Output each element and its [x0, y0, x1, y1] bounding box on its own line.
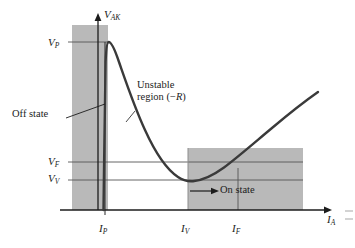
- unstable-region-suffix: ): [182, 91, 186, 102]
- x-axis-label-subscript: A: [331, 218, 336, 227]
- x-tick-label-peak-current: IP: [99, 222, 107, 236]
- on-state-annotation: On state: [220, 184, 255, 196]
- off-state-shaded-region: [72, 25, 108, 210]
- y-tick-symbol-vv: V: [48, 172, 55, 184]
- y-tick-symbol-vf: V: [48, 155, 55, 167]
- unstable-region-prefix: region (−: [137, 91, 176, 102]
- y-axis-label-subscript: AK: [111, 13, 121, 22]
- y-tick-label-valley-voltage: VV: [48, 172, 59, 186]
- y-tick-symbol-vp: V: [48, 36, 55, 48]
- off-state-annotation: Off state: [12, 108, 48, 120]
- x-tick-subscript-iv: V: [185, 227, 190, 236]
- x-tick-label-forward-current: IF: [232, 222, 240, 236]
- unstable-region-leader-line: [126, 111, 135, 122]
- vi-characteristic-figure: VAK IA VP VF VV IP IV IF Unstable region…: [0, 0, 355, 248]
- x-tick-subscript-ip: P: [103, 227, 108, 236]
- y-tick-label-peak-voltage: VP: [48, 36, 59, 50]
- x-tick-label-valley-current: IV: [181, 222, 189, 236]
- unstable-region-annotation: Unstable region (−R): [137, 79, 186, 103]
- x-tick-subscript-if: F: [236, 227, 241, 236]
- x-axis-label: IA: [327, 213, 335, 227]
- y-tick-subscript-vp: P: [55, 41, 60, 50]
- y-tick-subscript-vv: V: [55, 177, 60, 186]
- unstable-region-line1: Unstable: [137, 79, 186, 91]
- y-tick-subscript-vf: F: [55, 160, 60, 169]
- unstable-region-line2: region (−R): [137, 91, 186, 103]
- y-axis-arrow-icon: [95, 13, 102, 21]
- y-axis-label-symbol: V: [104, 8, 111, 20]
- y-tick-label-forward-voltage: VF: [48, 155, 59, 169]
- y-axis-label: VAK: [104, 8, 120, 22]
